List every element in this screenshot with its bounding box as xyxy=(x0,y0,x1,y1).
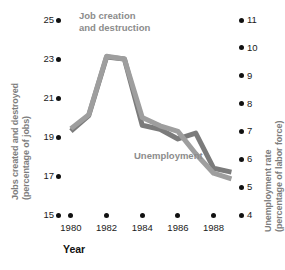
x-axis-title: Year xyxy=(63,243,85,255)
right-axis-tick-label: 8 xyxy=(247,98,252,109)
right-axis-tick-label: 9 xyxy=(247,70,252,81)
x-axis-tick-dot xyxy=(211,213,216,218)
left-axis-tick-label: 17 xyxy=(36,170,54,181)
right-axis-tick-dot xyxy=(239,185,244,190)
left-axis-tick-label: 19 xyxy=(36,131,54,142)
x-axis-tick-label: 1980 xyxy=(54,222,88,233)
left-axis-tick-dot xyxy=(56,213,61,218)
right-axis-tick-label: 6 xyxy=(247,153,252,164)
x-axis-tick-label: 1982 xyxy=(90,222,124,233)
left-axis-tick-dot xyxy=(56,57,61,62)
right-axis-tick-label: 10 xyxy=(247,42,258,53)
right-axis-tick-dot xyxy=(239,18,244,23)
job-creation-label-line2: and destruction xyxy=(79,22,150,34)
x-axis-tick-label: 1984 xyxy=(125,222,159,233)
chart-container: Jobs created and destroyed (percentage o… xyxy=(0,0,285,270)
right-axis-title: Unemployment rate (percentage of labor f… xyxy=(263,72,284,232)
right-axis-tick-dot xyxy=(239,157,244,162)
right-axis-tick-label: 4 xyxy=(247,209,252,220)
right-axis-title-line2: (percentage of labor force) xyxy=(274,72,285,232)
right-axis-title-line1: Unemployment rate xyxy=(263,72,274,232)
x-axis-tick-label: 1988 xyxy=(197,222,231,233)
job-creation-label-line1: Job creation xyxy=(79,10,150,22)
left-axis-tick-dot xyxy=(56,96,61,101)
left-axis-tick-dot xyxy=(56,135,61,140)
right-axis-tick-label: 11 xyxy=(247,14,257,25)
left-axis-tick-dot xyxy=(56,18,61,23)
right-axis-tick-label: 7 xyxy=(247,125,252,136)
left-axis-tick-label: 21 xyxy=(36,92,54,103)
x-axis-tick-dot xyxy=(68,213,73,218)
job-creation-label: Job creation and destruction xyxy=(79,10,150,33)
left-axis-tick-dot xyxy=(56,174,61,179)
left-axis-tick-label: 25 xyxy=(36,14,54,25)
x-axis-tick-dot xyxy=(140,213,145,218)
left-axis-title-line1: Jobs created and destroyed xyxy=(10,60,21,200)
left-axis-title-line2: (percentage of jobs) xyxy=(21,60,32,200)
left-axis-tick-label: 15 xyxy=(36,209,54,220)
right-axis-tick-label: 5 xyxy=(247,181,252,192)
x-axis-tick-dot xyxy=(104,213,109,218)
x-axis-tick-label: 1986 xyxy=(161,222,195,233)
left-axis-tick-label: 23 xyxy=(36,53,54,64)
left-axis-title: Jobs created and destroyed (percentage o… xyxy=(10,60,31,200)
right-axis-tick-dot xyxy=(239,213,244,218)
right-axis-tick-dot xyxy=(239,129,244,134)
unemployment-label: Unemployment xyxy=(134,150,203,162)
